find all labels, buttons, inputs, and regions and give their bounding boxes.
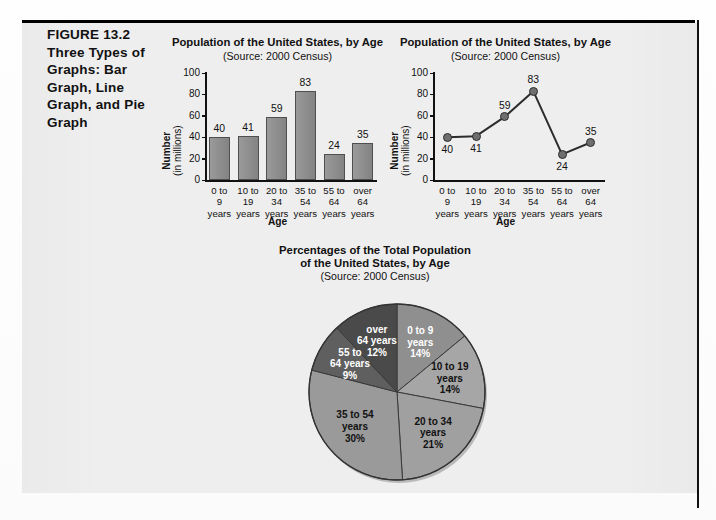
bar-0	[209, 137, 230, 180]
line-point-1	[472, 132, 481, 141]
pie-slice-label-5-line-2: 12%	[337, 347, 417, 359]
bar-value-label-4: 24	[318, 140, 350, 151]
bar-value-label-5: 35	[347, 129, 379, 140]
bar-graph-y-tickmark-60	[202, 115, 206, 117]
bar-y-axis-title: Number	[161, 132, 172, 170]
bar-graph-title: Population of the United States, by Age	[170, 36, 385, 49]
figure-caption-text: Three Types of Graphs: Bar Graph, Line G…	[47, 45, 145, 130]
bar-graph-x-category-5: over64years	[344, 185, 381, 219]
pie-slice-label-1: 10 to 19years14%	[410, 361, 490, 396]
bar-graph-y-tick-60: 60	[174, 111, 200, 121]
bar-graph-y-tickmark-80	[202, 94, 206, 96]
bar-graph-subtitle: (Source: 2000 Census)	[170, 50, 385, 63]
bar-graph-y-tick-100: 100	[174, 68, 200, 78]
pie-slice-label-2-line-1: years	[393, 427, 473, 439]
pie-slice-label-5-line-1: 64 years	[337, 335, 417, 347]
bar-graph-y-tickmark-100	[202, 73, 206, 75]
line-value-label-1: 41	[460, 143, 492, 154]
bar-graph-y-tickmark-0	[202, 180, 206, 182]
pie-graph-subtitle: (Source: 2000 Census)	[255, 270, 495, 283]
line-value-label-0: 40	[431, 144, 463, 155]
bar-value-label-2: 59	[261, 103, 293, 114]
pie-slice-label-1-line-2: 14%	[410, 384, 490, 396]
pie-slice-label-2-line-2: 21%	[393, 439, 473, 451]
pie-slice-label-2: 20 to 34years21%	[393, 416, 473, 451]
pie-slice-label-1-line-0: 10 to 19	[410, 361, 490, 373]
pie-slice-label-2-line-0: 20 to 34	[393, 416, 473, 428]
pie-slice-label-5-line-0: over	[337, 324, 417, 336]
bar-5	[352, 143, 373, 180]
bar-1	[238, 136, 259, 180]
pie-slice-label-4-line-2: 9%	[310, 370, 390, 382]
bar-graph-x-axis-label: Age	[170, 216, 385, 227]
bar-value-label-0: 40	[203, 123, 235, 134]
bar-graph-x-category-5-line-1: 64	[344, 196, 381, 207]
figure-right-rule	[697, 20, 699, 508]
pie-slice-label-1-line-1: years	[410, 373, 490, 385]
line-value-label-3: 83	[517, 74, 549, 85]
bar-4	[324, 154, 345, 180]
line-graph-x-axis-label: Age	[398, 216, 613, 227]
pie-slice-label-3-line-1: years	[315, 421, 395, 433]
line-point-3	[529, 87, 538, 96]
line-value-label-5: 35	[575, 126, 607, 137]
line-value-label-2: 59	[489, 100, 521, 111]
bar-graph-y-tick-0: 0	[174, 175, 200, 185]
pie-slice-label-3-line-2: 30%	[315, 433, 395, 445]
bar-value-label-3: 83	[289, 77, 321, 88]
line-graph-x-category-5-line-1: 64	[572, 196, 609, 207]
line-point-0	[443, 133, 452, 142]
figure-number: FIGURE 13.2	[47, 26, 167, 44]
pie-graph-title-line2: of the United States, by Age	[255, 257, 495, 270]
bar-3	[295, 91, 316, 180]
line-graph-x-category-5: over64years	[572, 185, 609, 219]
bar-2	[266, 117, 287, 180]
bar-graph-y-tick-20: 20	[174, 154, 200, 164]
bar-graph-y-tickmark-40	[202, 137, 206, 139]
bar-graph-x-axis-line	[205, 180, 377, 182]
bar-graph-y-tick-80: 80	[174, 89, 200, 99]
bar-graph-y-tickmark-20	[202, 158, 206, 160]
pie-graph-title-line1: Percentages of the Total Population	[255, 244, 495, 257]
line-value-label-4: 24	[546, 161, 578, 172]
pie-slice-label-4-line-1: 64 years	[310, 358, 390, 370]
line-graph: Population of the United States, by Age …	[398, 36, 613, 236]
bar-graph-x-category-5-line-0: over	[344, 185, 381, 196]
bar-value-label-1: 41	[232, 122, 264, 133]
pie-slice-label-3-line-0: 35 to 54	[315, 409, 395, 421]
bar-graph-y-tick-40: 40	[174, 132, 200, 142]
bar-graph: Population of the United States, by Age …	[170, 36, 385, 236]
line-graph-x-category-5-line-0: over	[572, 185, 609, 196]
pie-graph: Percentages of the Total Population of t…	[255, 244, 495, 283]
line-point-4	[558, 150, 567, 159]
figure-caption: FIGURE 13.2 Three Types of Graphs: Bar G…	[47, 26, 167, 131]
pie-slice-label-3: 35 to 54years30%	[315, 409, 395, 444]
pie-slice-label-5: over64 years12%	[337, 324, 417, 359]
